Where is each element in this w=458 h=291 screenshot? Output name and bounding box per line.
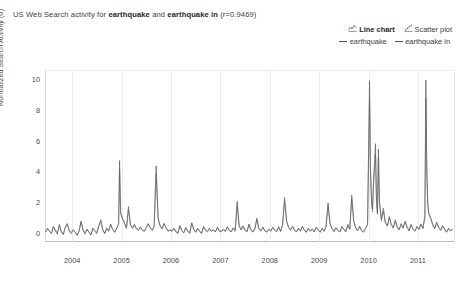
series-line: [45, 98, 452, 235]
chart-type-line-label: Line chart: [359, 25, 394, 34]
x-tick-label: 2006: [163, 256, 179, 265]
series-line: [45, 80, 452, 236]
chart-title: US Web Search activity for earthquake an…: [13, 10, 256, 20]
chart-type-scatter-label: Scatter plot: [415, 25, 452, 34]
legend-label-earthquake: earthquake: [350, 37, 387, 46]
legend-item-earthquake-in[interactable]: earthquake in: [395, 37, 450, 46]
x-tick-label: 2007: [212, 256, 228, 265]
scatter-plot-icon: [404, 24, 413, 34]
y-tick-label: 2: [6, 198, 40, 207]
title-correlation: (r=0.9469): [218, 10, 256, 19]
series-canvas: [45, 70, 455, 242]
plot-area: [45, 70, 455, 242]
y-tick-label: 0: [6, 228, 40, 237]
title-term-1: earthquake: [108, 10, 150, 19]
y-tick-label: 6: [6, 136, 40, 145]
title-prefix: US Web Search activity for: [13, 10, 108, 19]
title-term-2: earthquake in: [167, 10, 218, 19]
legend-label-earthquake-in: earthquake in: [405, 37, 450, 46]
x-tick-label: 2008: [262, 256, 278, 265]
legend-swatch-earthquake: [339, 41, 347, 42]
x-tick-label: 2011: [410, 256, 426, 265]
chart-type-switcher: Line chart Scatter plot: [348, 24, 452, 34]
y-tick-label: 10: [6, 75, 40, 84]
x-tick-label: 2004: [64, 256, 80, 265]
legend-swatch-earthquake-in: [395, 41, 403, 42]
x-tick-label: 2010: [360, 256, 376, 265]
chart-legend: earthquake earthquake in: [339, 37, 450, 46]
y-tick-label: 4: [6, 167, 40, 176]
line-chart-icon: [348, 24, 357, 34]
title-conjunction: and: [150, 10, 167, 19]
x-tick-label: 2009: [311, 256, 327, 265]
x-axis-ticks: 20042005200620072008200920102011: [0, 256, 458, 270]
y-tick-label: 8: [6, 105, 40, 114]
chart-type-scatter[interactable]: Scatter plot: [404, 24, 452, 34]
chart-page: US Web Search activity for earthquake an…: [0, 0, 458, 291]
x-tick-label: 2005: [113, 256, 129, 265]
chart-type-line[interactable]: Line chart: [348, 24, 394, 34]
legend-item-earthquake[interactable]: earthquake: [339, 37, 386, 46]
y-axis-ticks: 0246810: [0, 70, 40, 242]
